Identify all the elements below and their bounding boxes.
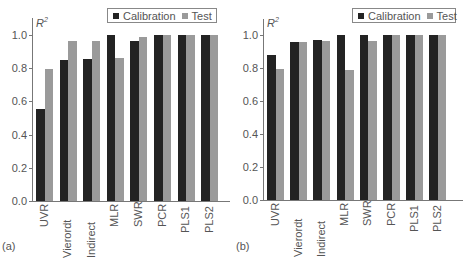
y-tick-label: 0.4 xyxy=(1,130,27,141)
chart-panel-a: 0.00.20.40.60.81.0R2UVRVierordtIndirectM… xyxy=(0,0,234,273)
bar-calibration-mlr xyxy=(107,35,116,201)
y-tick xyxy=(260,200,263,201)
y-tick-label: 0.2 xyxy=(232,162,258,173)
bar-calibration-indirect xyxy=(83,59,92,201)
x-tick-label: Vierordt xyxy=(293,218,304,256)
legend-label-calibration: Calibration xyxy=(123,10,176,22)
y-tick xyxy=(29,68,32,69)
x-tick-label: MLR xyxy=(339,203,350,226)
bar-test-pcr xyxy=(392,35,401,200)
y-tick-label: 0.2 xyxy=(1,163,27,174)
legend-swatch-test xyxy=(182,13,188,19)
y-tick-label: 0.0 xyxy=(1,196,27,207)
y-tick xyxy=(29,135,32,136)
y-tick-label: 0.6 xyxy=(232,96,258,107)
bar-test-swr xyxy=(368,41,377,200)
y-tick-label: 1.0 xyxy=(1,30,27,41)
bar-test-swr xyxy=(139,37,148,201)
bar-test-pcr xyxy=(163,35,172,201)
bar-test-indirect xyxy=(92,41,101,201)
y-axis xyxy=(263,19,264,201)
bar-calibration-vierordt xyxy=(60,60,69,201)
x-tick-label: UVR xyxy=(270,203,281,226)
bar-test-vierordt xyxy=(68,41,77,201)
bar-calibration-vierordt xyxy=(290,42,299,200)
bar-calibration-swr xyxy=(130,41,139,201)
bar-calibration-pls2 xyxy=(429,35,438,200)
y-axis xyxy=(32,18,33,201)
bar-test-mlr xyxy=(345,70,354,200)
x-axis xyxy=(32,201,230,202)
bar-calibration-pcr xyxy=(154,35,163,201)
y-tick-label: 1.0 xyxy=(232,30,258,41)
x-tick-label: MLR xyxy=(109,204,120,227)
y-tick xyxy=(29,168,32,169)
bar-test-pls1 xyxy=(415,35,424,200)
legend-item-test: Test xyxy=(180,10,212,22)
panel-label: (a) xyxy=(2,240,15,252)
x-tick-label: PLS1 xyxy=(180,206,191,233)
x-tick-label: SWR xyxy=(362,201,373,227)
y-tick-label: 0.0 xyxy=(232,195,258,206)
bar-calibration-pls1 xyxy=(406,35,415,200)
legend-item-calibration: Calibration xyxy=(356,10,421,22)
legend: CalibrationTest xyxy=(107,8,217,23)
legend: CalibrationTest xyxy=(352,8,456,23)
y-tick-label: 0.8 xyxy=(232,63,258,74)
x-tick-label: SWR xyxy=(133,202,144,228)
legend-swatch-calibration xyxy=(113,13,119,19)
bar-calibration-mlr xyxy=(337,35,346,200)
x-tick-label: PLS2 xyxy=(432,205,443,232)
panel-label: (b) xyxy=(236,240,249,252)
x-tick-label: PLS1 xyxy=(409,205,420,232)
y-tick xyxy=(260,101,263,102)
bar-calibration-indirect xyxy=(313,40,322,200)
bar-calibration-swr xyxy=(360,35,369,200)
legend-swatch-calibration xyxy=(358,13,364,19)
y-tick-label: 0.4 xyxy=(232,129,258,140)
y-axis-label: R2 xyxy=(36,16,48,29)
x-tick-label: UVR xyxy=(39,204,50,227)
bar-test-mlr xyxy=(115,58,124,201)
bar-test-indirect xyxy=(322,41,331,200)
y-axis-label-text: R xyxy=(267,17,275,29)
bar-test-vierordt xyxy=(299,42,308,200)
y-tick xyxy=(29,35,32,36)
y-tick xyxy=(29,101,32,102)
y-axis-label-text: R xyxy=(36,17,44,29)
legend-item-test: Test xyxy=(425,10,457,22)
bar-calibration-pls2 xyxy=(201,35,210,201)
y-tick xyxy=(260,68,263,69)
bar-test-uvr xyxy=(45,69,54,201)
bar-test-pls2 xyxy=(210,35,219,201)
y-tick xyxy=(260,35,263,36)
x-tick-label: Indirect xyxy=(86,222,97,258)
legend-label-test: Test xyxy=(192,10,212,22)
legend-label-test: Test xyxy=(437,10,457,22)
legend-swatch-test xyxy=(427,13,433,19)
legend-item-calibration: Calibration xyxy=(111,10,176,22)
y-tick xyxy=(260,167,263,168)
bar-test-pls1 xyxy=(186,35,195,201)
bar-calibration-pls1 xyxy=(178,35,187,201)
y-tick xyxy=(29,201,32,202)
bar-test-pls2 xyxy=(438,35,447,200)
y-tick xyxy=(260,134,263,135)
bar-calibration-uvr xyxy=(36,109,45,201)
x-tick-label: PCR xyxy=(157,204,168,227)
y-axis-label: R2 xyxy=(267,16,279,29)
x-tick-label: PLS2 xyxy=(204,206,215,233)
y-tick-label: 0.8 xyxy=(1,63,27,74)
x-tick-label: Indirect xyxy=(316,221,327,257)
y-axis-label-superscript: 2 xyxy=(44,16,48,23)
legend-label-calibration: Calibration xyxy=(368,10,421,22)
bar-calibration-uvr xyxy=(267,55,276,200)
y-tick-label: 0.6 xyxy=(1,96,27,107)
bar-test-uvr xyxy=(276,69,285,200)
x-tick-label: PCR xyxy=(386,203,397,226)
y-axis-label-superscript: 2 xyxy=(275,16,279,23)
x-tick-label: Vierordt xyxy=(62,219,73,257)
bar-calibration-pcr xyxy=(383,35,392,200)
chart-panel-b: 0.00.20.40.60.81.0R2UVRVierordtIndirectM… xyxy=(234,0,468,273)
